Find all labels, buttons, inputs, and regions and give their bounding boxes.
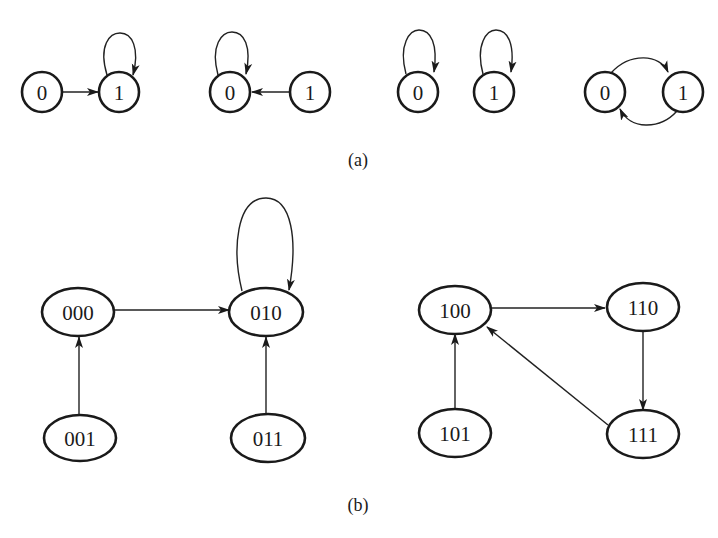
caption-a: (a) [348,150,368,171]
node-111: 111 [607,410,679,458]
node-a1-1: 1 [99,72,139,112]
node-label: 0 [37,81,48,105]
node-a2-1: 1 [290,72,330,112]
node-a4-0: 0 [585,72,625,112]
part-b: 000 010 001 011 100 110 101 111 [42,198,679,516]
self-loop-a3-1 [480,30,512,74]
node-label: 1 [678,81,689,105]
graph-a3: 0 1 [398,30,514,112]
caption-b: (b) [348,495,369,516]
node-label: 1 [489,81,500,105]
node-110: 110 [607,283,679,331]
graph-a4: 0 1 [585,58,703,125]
part-a: 0 1 0 1 0 [22,30,703,171]
node-label: 011 [253,427,284,451]
node-label: 110 [628,296,659,320]
node-label: 0 [600,81,611,105]
node-label: 1 [114,81,125,105]
edge-111-to-100 [487,327,608,425]
node-a3-1: 1 [474,72,514,112]
state-transition-figure: 0 1 0 1 0 [0,0,718,538]
self-loop-a1-1 [104,33,136,75]
node-label: 0 [225,81,236,105]
node-label: 001 [64,427,96,451]
node-label: 111 [628,423,658,447]
node-010: 010 [229,288,303,336]
node-a4-1: 1 [663,72,703,112]
graph-a1: 0 1 [22,33,139,112]
node-101: 101 [419,409,491,457]
node-a1-0: 0 [22,72,62,112]
node-label: 100 [439,299,471,323]
node-label: 101 [439,422,471,446]
node-a3-0: 0 [398,72,438,112]
node-000: 000 [42,288,114,336]
self-loop-a3-0 [403,30,435,74]
node-a2-0: 0 [210,72,250,112]
node-label: 000 [62,301,94,325]
self-loop-010 [237,198,293,291]
node-label: 0 [413,81,424,105]
graph-a2: 0 1 [210,32,330,112]
node-001: 001 [44,415,116,461]
node-label: 010 [250,301,282,325]
edge-a4-0-to-1 [611,58,668,73]
node-label: 1 [305,81,316,105]
node-100: 100 [419,286,491,334]
self-loop-a2-0 [215,32,248,75]
node-011: 011 [231,414,305,462]
edge-a4-1-to-0 [620,109,677,125]
